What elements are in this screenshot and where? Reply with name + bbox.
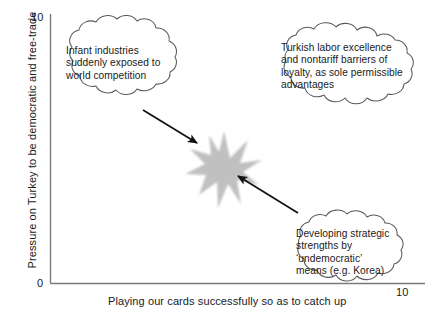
x-axis-label: Playing our cards successfully so as to … [108,295,346,307]
cloud-label-developing-strategic: Developing strategic strengths by ‘undem… [296,228,418,278]
cloud-label-turkish-labor: Turkish labor excellence and nontariff b… [281,42,421,92]
cloud-label-infant-industries: Infant industries suddenly exposed to wo… [66,45,184,82]
diagram-canvas: 10 0 10 Playing our cards successfully s… [0,0,432,319]
arrow-developing-strategic-to-burst [238,176,298,213]
y-axis-tick-min: 0 [37,277,43,289]
y-axis-label: Pressure on Turkey to be democratic and … [26,10,38,270]
x-axis-tick-max: 10 [396,286,409,298]
arrow-infant-industries-to-burst [143,110,197,143]
